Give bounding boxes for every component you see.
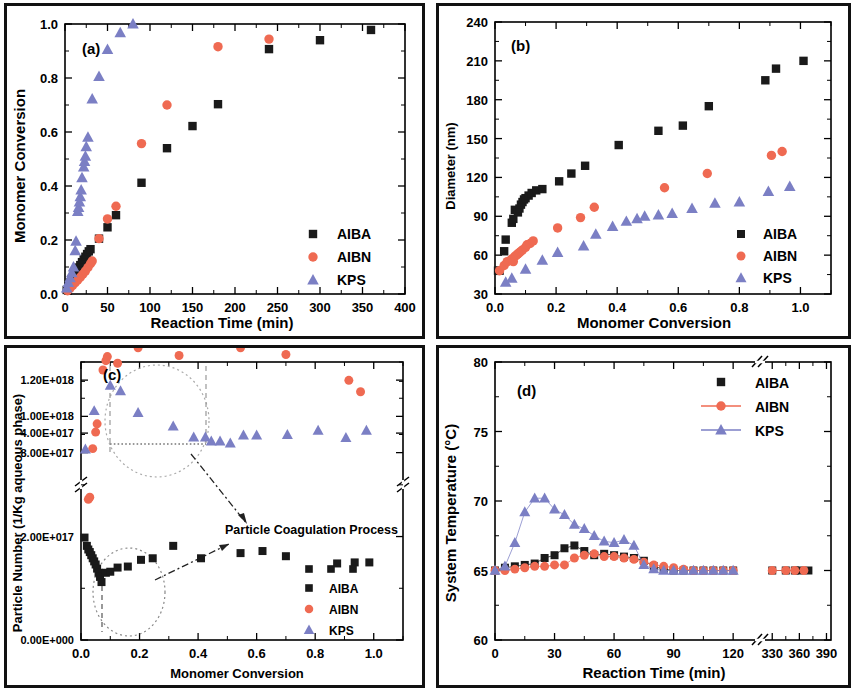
data-point-KPS [590,228,602,238]
data-point-KPS [80,150,92,160]
legend-label-KPS: KPS [337,272,366,288]
panel-c-ytick: 4.00E+017 [20,427,74,439]
data-point-AIBN [767,151,776,160]
data-point-KPS [93,71,105,81]
panel-a-xtick: 100 [139,300,161,315]
data-point-KPS [89,405,100,415]
data-point-KPS [589,530,600,540]
data-point-AIBA [169,542,177,550]
data-point-AIBA [81,534,89,542]
data-point-AIBN [660,183,669,192]
panel-c: 0.00E+0002.00E+0174.00E+0178.00E+0171.00… [4,345,425,688]
data-point-AIBN [91,428,100,437]
legend-extra-marker-AIBA [327,565,335,573]
panel-d-ytick: 65 [474,564,488,579]
panel-b-xtick: 0.0 [486,300,504,315]
data-point-KPS [215,436,226,446]
data-point-AIBN [610,552,619,561]
data-point-KPS [607,221,619,231]
panel-d-ytick: 80 [474,355,488,370]
data-point-AIBN [85,493,94,502]
panel-b-ytick: 30 [474,287,488,302]
data-point-KPS [519,506,530,516]
panel-a-ytick: 0.8 [40,71,58,86]
data-point-AIBA [86,245,94,253]
panel-c-label: (c) [103,366,121,383]
panel-d-ytick: 70 [474,494,488,509]
panel-c-xtick: 0.2 [131,646,149,661]
data-point-AIBN [93,419,102,428]
legend-marker-AIBA [309,230,317,238]
data-point-KPS [784,180,796,190]
data-point-AIBN [264,34,273,43]
data-point-KPS [76,172,88,182]
data-point-AIBA [679,121,687,129]
data-point-AIBA [237,549,245,557]
data-point-AIBA [654,127,662,135]
data-point-AIBN [777,147,786,156]
data-point-KPS [102,44,114,54]
panel-a-ytick: 0.0 [40,287,58,302]
panel-b: 0.00.20.40.60.81.0306090120150180210240 … [436,3,851,339]
data-point-AIBA [137,556,145,564]
data-point-AIBN [600,552,609,561]
data-point-AIBA [615,141,623,149]
panel-b-ytick: 120 [466,170,488,185]
data-point-AIBN [213,42,222,51]
legend-label-KPS: KPS [763,270,792,286]
data-point-KPS [529,492,540,502]
data-point-AIBN [94,234,103,243]
data-point-KPS [127,18,139,28]
data-point-AIBA [365,558,373,566]
data-point-AIBA [258,547,266,555]
panel-a-ylabel: Monomer Conversion [11,89,28,243]
data-point-AIBN [576,213,585,222]
panel-a-ytick: 0.2 [40,233,58,248]
legend-marker-AIBA [737,230,745,238]
panel-d-xtick: 60 [607,646,621,661]
legend-label-AIBA: AIBA [329,582,359,596]
data-point-AIBN [530,562,539,571]
data-point-AIBA [103,223,111,231]
data-point-KPS [86,93,98,103]
data-point-AIBA [551,551,559,559]
panel-b-label: (b) [511,37,530,54]
coagulation-annotation: Particle Coagulation Process [225,523,398,537]
panel-d-xtick: 330 [761,646,783,661]
data-point-KPS [238,430,249,440]
panel-d-xtick: 90 [666,646,680,661]
panel-b-xtick: 0.6 [669,300,687,315]
data-point-AIBA [501,235,509,243]
panel-c-xtick: 1.0 [365,646,383,661]
panel-d-ylabel: System Temperature (°C) [442,424,459,602]
data-point-AIBN [520,563,529,572]
panel-b-plot: 0.00.20.40.60.81.0306090120150180210240 … [439,6,848,336]
panel-b-xtick: 0.2 [547,300,565,315]
data-point-AIBA [555,177,563,185]
legend-marker-KPS [307,274,319,284]
data-point-AIBN [580,551,589,560]
legend-label-AIBN: AIBN [763,248,797,264]
data-point-AIBN [281,350,290,359]
panel-c-plot: 0.00E+0002.00E+0174.00E+0178.00E+0171.00… [7,348,422,685]
panel-c-xlabel: Monomer Conversion [170,666,304,681]
panel-a-ytick: 0.6 [40,125,58,140]
data-point-AIBN [590,203,599,212]
data-point-KPS [69,245,81,255]
panel-d-xlabel: Reaction Time (min) [582,664,725,681]
data-point-AIBN [134,348,143,352]
legend-marker-AIBN [305,605,314,614]
panel-d-ytick: 75 [474,425,488,440]
data-point-AIBN [236,348,245,352]
data-point-KPS [578,240,590,250]
panel-b-xlabel: Monomer Conversion [577,314,731,331]
data-point-AIBA [149,554,157,562]
legend-label-AIBN: AIBN [755,399,789,415]
data-point-KPS [579,523,590,533]
panel-c-ytick: 2.00E+017 [20,531,74,543]
panel-b-ytick: 210 [466,54,488,69]
data-point-AIBN [768,566,777,575]
panel-d-plot: 03060901203303603906065707580 (d) Reacti… [439,348,848,685]
data-point-AIBA [500,247,508,255]
data-point-KPS [313,425,324,435]
